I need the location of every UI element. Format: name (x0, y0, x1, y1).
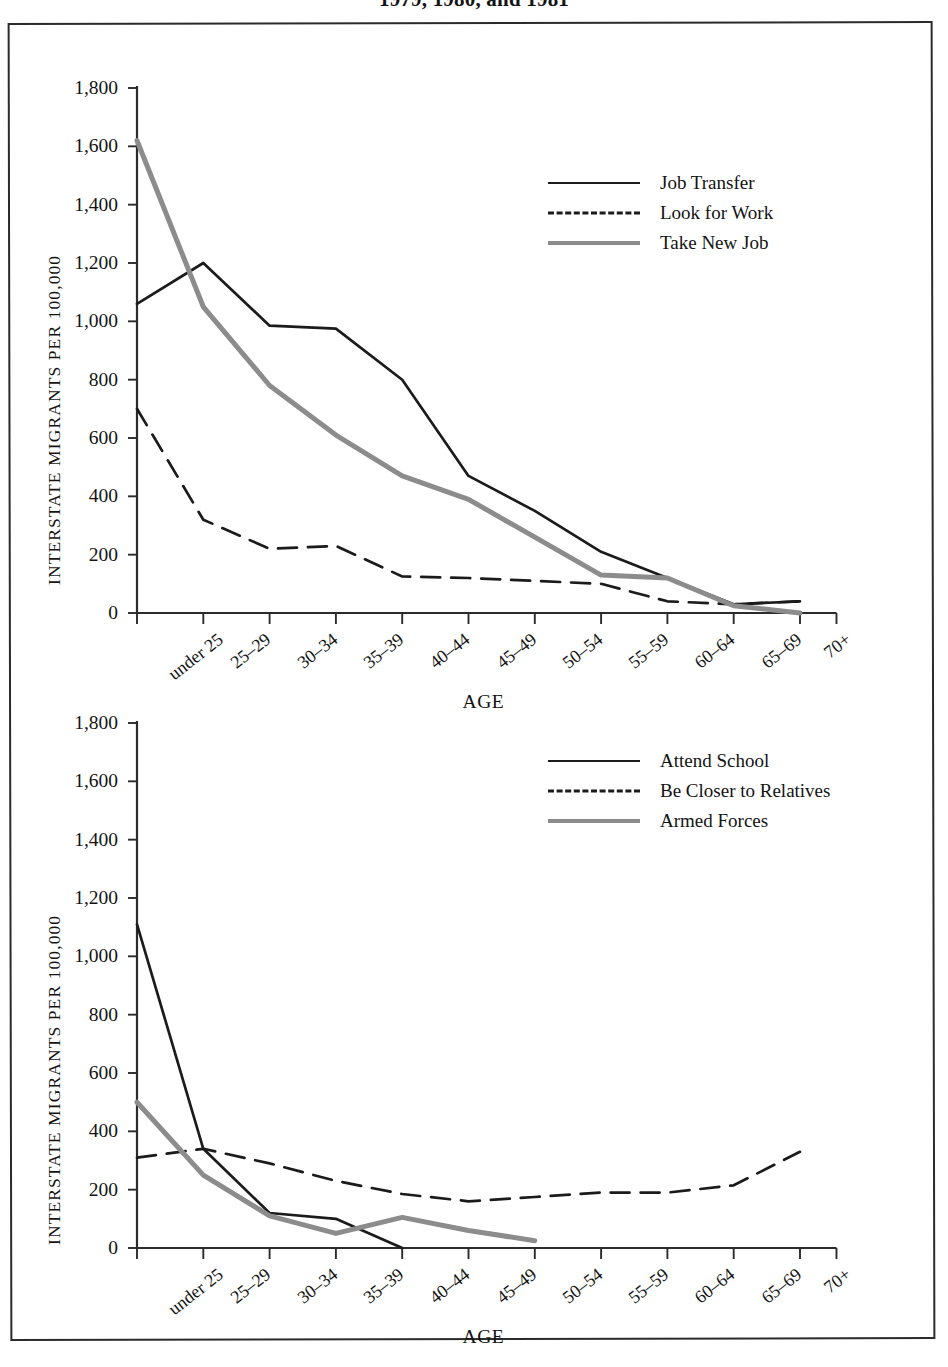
chart-panel-nonwork-reasons: INTERSTATE MIGRANTS PER 100,000 Attend S… (0, 700, 948, 1360)
legend-item[interactable]: Armed Forces (548, 806, 830, 836)
legend-swatch-solid-gray-icon (548, 236, 640, 250)
legend-label: Armed Forces (640, 810, 768, 832)
y-tick-label: 1,000 (17, 945, 118, 967)
legend-item[interactable]: Take New Job (548, 228, 773, 258)
y-tick-label: 400 (17, 1120, 118, 1142)
y-tick-label: 1,600 (17, 770, 118, 792)
legend-item[interactable]: Look for Work (548, 198, 773, 228)
y-tick-label: 800 (17, 1004, 118, 1026)
legend-item[interactable]: Job Transfer (548, 168, 773, 198)
page-title: 1979, 1980, and 1981 (0, 0, 948, 12)
legend-item[interactable]: Attend School (548, 746, 830, 776)
legend-label: Attend School (640, 750, 769, 772)
y-tick-label: 400 (17, 485, 118, 507)
y-tick-label: 1,800 (17, 712, 118, 734)
legend-label: Job Transfer (640, 172, 754, 194)
legend-swatch-solid-gray-icon (548, 814, 640, 828)
y-tick-label: 1,400 (17, 194, 118, 216)
series-line (137, 409, 800, 605)
y-tick-label: 1,800 (17, 77, 118, 99)
legend-label: Be Closer to Relatives (640, 780, 830, 802)
line-chart-work-reasons (0, 40, 948, 700)
y-tick-label: 0 (17, 1237, 118, 1259)
y-tick-label: 600 (17, 427, 118, 449)
x-axis-title: AGE (463, 1326, 505, 1348)
series-line (137, 924, 402, 1248)
y-tick-label: 800 (17, 369, 118, 391)
series-line (137, 263, 800, 604)
y-tick-label: 200 (17, 1179, 118, 1201)
legend-label: Take New Job (640, 232, 768, 254)
y-tick-label: 1,200 (17, 887, 118, 909)
legend-item[interactable]: Be Closer to Relatives (548, 776, 830, 806)
legend-swatch-solid-black-icon (548, 176, 640, 190)
chart-panel-work-reasons: INTERSTATE MIGRANTS PER 100,000 Job Tran… (0, 40, 948, 700)
y-tick-label: 0 (17, 602, 118, 624)
legend-swatch-dashed-black-icon (548, 784, 640, 798)
y-tick-label: 1,600 (17, 135, 118, 157)
y-tick-label: 200 (17, 544, 118, 566)
y-tick-label: 1,200 (17, 252, 118, 274)
legend-label: Look for Work (640, 202, 773, 224)
legend-swatch-dashed-black-icon (548, 206, 640, 220)
y-tick-label: 1,000 (17, 310, 118, 332)
y-tick-label: 1,400 (17, 829, 118, 851)
legend-swatch-solid-black-icon (548, 754, 640, 768)
y-tick-label: 600 (17, 1062, 118, 1084)
chart-legend-nonwork-reasons: Attend SchoolBe Closer to RelativesArmed… (548, 746, 830, 836)
chart-legend-work-reasons: Job TransferLook for WorkTake New Job (548, 168, 773, 258)
